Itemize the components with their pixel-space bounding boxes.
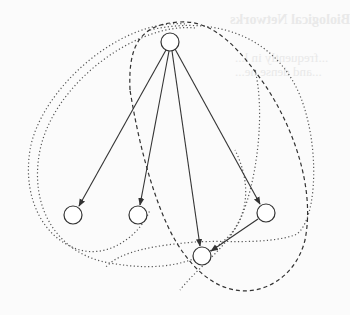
edge-root-leaf-a: [79, 50, 166, 206]
grouping-loop-dashed: [130, 22, 308, 291]
edge-leaf-c-sink: [211, 219, 258, 251]
edge-root-sink: [172, 51, 200, 246]
edge-root-leaf-c: [175, 49, 260, 204]
node-sink: [193, 247, 211, 265]
grouping-loop-dotted: [180, 70, 260, 290]
node-leaf-b: [129, 206, 147, 224]
edge-root-leaf-b: [140, 51, 169, 205]
node-root: [161, 33, 179, 51]
grouping-loop-dotted: [105, 25, 314, 268]
node-leaf-a: [64, 206, 82, 224]
node-leaf-c: [257, 204, 275, 222]
